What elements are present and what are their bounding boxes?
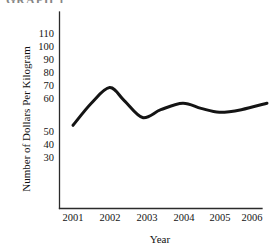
x-tick-label: 2002 (100, 212, 121, 223)
y-tick-label: 30 (44, 152, 55, 163)
y-tick-label: 50 (44, 126, 55, 137)
y-tick-label: 40 (44, 139, 55, 150)
y-tick-label: 90 (44, 54, 55, 65)
y-axis-title: Number of Dollars Per Kilogram (20, 46, 32, 192)
y-tick-label: 80 (44, 67, 55, 78)
x-tick-labels: 2001 2002 2003 2004 2005 2006 (63, 212, 263, 223)
y-tick-label: 60 (44, 93, 55, 104)
chart-figure: GRAPH 1 110 100 90 80 70 60 50 40 30 60 … (0, 0, 275, 249)
line-chart-plot: 110 100 90 80 70 60 50 40 30 60 2001 200… (0, 0, 275, 249)
y-tick-label: 100 (38, 41, 54, 52)
y-tick-label: 110 (39, 28, 54, 39)
x-tick-label: 2001 (63, 212, 84, 223)
y-tick-labels: 110 100 90 80 70 60 50 40 30 60 (38, 28, 54, 163)
y-tick-label: 70 (44, 80, 55, 91)
x-axis-title: Year (150, 233, 171, 245)
x-tick-label: 2004 (174, 212, 196, 223)
x-tick-label: 2005 (210, 212, 231, 223)
data-series-line (73, 88, 267, 126)
x-tick-label: 2003 (137, 212, 158, 223)
x-tick-label: 2006 (242, 212, 263, 223)
